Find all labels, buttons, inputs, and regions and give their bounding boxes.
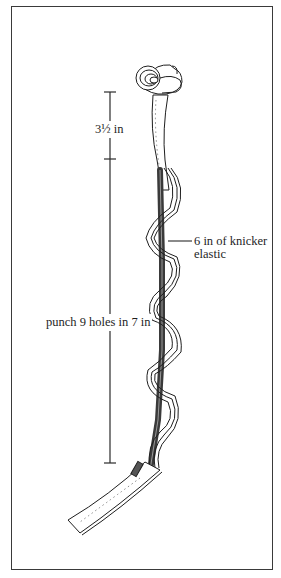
lower-dimension-label: punch 9 holes in 7 in [45,314,152,331]
dimension-line [104,92,116,463]
upper-dimension-label: 3½ in [95,121,123,138]
elastic-callout-label: 6 in of knicker elastic [194,235,267,261]
rolled-coil [136,65,182,94]
lower-strap [68,461,162,535]
elastic-callout-line2: elastic [194,248,267,261]
strap-elastic-illustration [0,0,281,578]
